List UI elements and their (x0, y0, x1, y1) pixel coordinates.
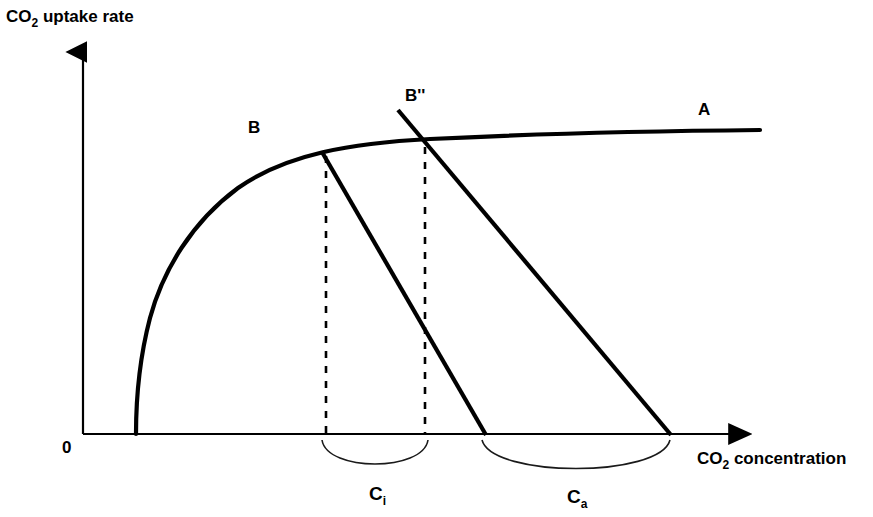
label-curve-a: A (698, 100, 710, 119)
brace-arc-ci (322, 440, 428, 464)
y-axis-title: CO2 uptake rate (6, 7, 134, 30)
x-axis-title-main: CO (697, 449, 723, 468)
label-curve-b: B (248, 118, 260, 137)
line-b2-supply-function (398, 110, 671, 435)
co2-response-diagram: CO2 uptake rate CO2 concentration 0 B B'… (0, 0, 873, 517)
line-b-supply-function (322, 152, 486, 435)
label-curve-b2: B'' (405, 86, 425, 105)
brace-arc-ca (482, 440, 670, 469)
x-axis-title: CO2 concentration (697, 449, 846, 472)
label-ci-subscript: i (383, 494, 386, 508)
label-ca: Ca (567, 486, 588, 511)
x-axis-title-rest: concentration (729, 449, 846, 468)
label-ca-main: C (567, 486, 581, 507)
label-ca-subscript: a (581, 497, 588, 511)
y-axis-title-rest: uptake rate (38, 7, 133, 26)
curve-a-demand-function (136, 130, 760, 434)
y-axis-title-main: CO (6, 7, 32, 26)
label-ci: Ci (369, 483, 386, 508)
origin-label: 0 (62, 438, 71, 457)
figure-canvas: CO2 uptake rate CO2 concentration 0 B B'… (0, 0, 873, 517)
label-ci-main: C (369, 483, 383, 504)
